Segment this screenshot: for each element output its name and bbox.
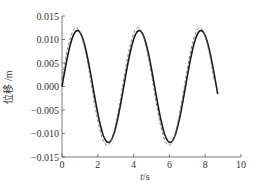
x-tick-label: 8 <box>203 159 208 170</box>
y-tick-label: 0.000 <box>37 81 60 92</box>
x-tick-label: 0 <box>60 159 65 170</box>
y-axis-label: 位移 /m <box>2 70 14 103</box>
y-tick-label: −0.015 <box>31 152 59 163</box>
x-tick-label: 2 <box>95 159 100 170</box>
x-axis-label: t/s <box>140 171 150 182</box>
displacement-chart: 0.0150.0100.0050.000−0.005−0.010−0.015 0… <box>0 0 261 186</box>
x-tick-label: 4 <box>131 159 136 170</box>
x-tick-label: 6 <box>167 159 172 170</box>
series-line-solid <box>62 31 218 143</box>
x-tick-label: 10 <box>236 159 246 170</box>
y-tick-label: 0.010 <box>37 34 60 45</box>
y-tick-label: 0.005 <box>37 58 60 69</box>
y-tick-label: 0.015 <box>37 11 60 22</box>
y-tick-label: −0.005 <box>31 105 59 116</box>
y-tick-label: −0.010 <box>31 128 59 139</box>
y-ticks: 0.0150.0100.0050.000−0.005−0.010−0.015 <box>31 11 65 163</box>
x-axis-label-unit: /s <box>143 171 150 182</box>
x-ticks: 0246810 <box>60 154 247 170</box>
series-group <box>62 28 218 146</box>
axes: 0.0150.0100.0050.000−0.005−0.010−0.015 0… <box>31 11 246 171</box>
